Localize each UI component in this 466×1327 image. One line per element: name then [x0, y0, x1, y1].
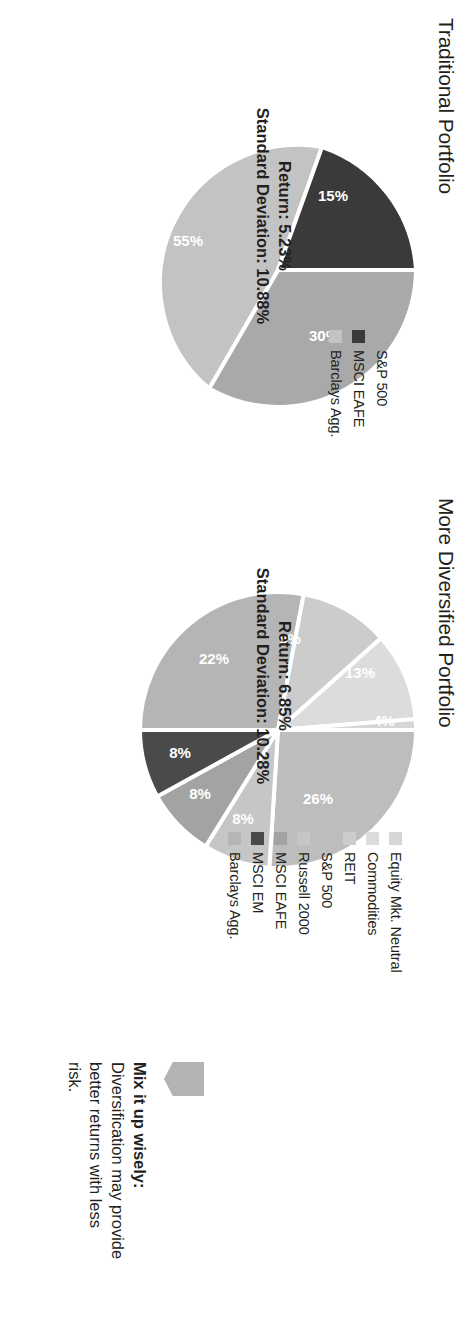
pie-value-label: 26%: [303, 790, 333, 807]
legend-swatch-icon: [390, 832, 403, 845]
callout-heading: Mix it up wisely:: [131, 1062, 149, 1189]
legend-item[interactable]: Equity Mkt. Neutral: [388, 832, 404, 973]
legend-traditional: S&P 500 MSCI EAFE Barclays Agg.: [328, 330, 390, 437]
legend-item[interactable]: MSCI EAFE: [351, 330, 367, 437]
chart-title-diversified: More Diversified Portfolio: [434, 498, 458, 1058]
infographic-canvas: Traditional Portfolio 30% 55% 15%: [0, 0, 466, 1327]
legend-swatch-icon: [367, 832, 380, 845]
legend-item[interactable]: S&P 500: [319, 832, 335, 973]
chart-title-traditional: Traditional Portfolio: [434, 18, 458, 488]
legend-item-label: REIT: [342, 852, 358, 885]
legend-item-label: Barclays Agg.: [328, 350, 344, 437]
legend-swatch-icon: [321, 832, 334, 845]
legend-swatch-icon: [330, 330, 343, 343]
shield-icon: [164, 1062, 204, 1096]
callout-text: Mix it up wisely: Diversification may pr…: [63, 1062, 150, 1262]
legend-item-label: Commodities: [365, 852, 381, 936]
legend-item-label: MSCI EM: [250, 852, 266, 913]
legend-swatch-icon: [275, 832, 288, 845]
legend-swatch-icon: [376, 330, 389, 343]
stdev-value-diversified: Standard Deviation: 10.28%: [251, 506, 273, 846]
pie-value-label: 8%: [189, 785, 211, 802]
legend-item-label: S&P 500: [319, 852, 335, 908]
return-value-diversified: Return: 6.85%: [274, 506, 296, 846]
chart-panel-diversified: More Diversified Portfolio: [0, 480, 466, 1040]
legend-item[interactable]: Barclays Agg.: [227, 832, 243, 973]
legend-item[interactable]: Russell 2000: [296, 832, 312, 973]
legend-item-label: Equity Mkt. Neutral: [388, 852, 404, 973]
legend-swatch-icon: [344, 832, 357, 845]
legend-item-label: Russell 2000: [296, 852, 312, 935]
legend-item-label: MSCI EAFE: [273, 852, 289, 929]
legend-swatch-icon: [353, 330, 366, 343]
legend-diversified: Equity Mkt. Neutral Commodities REIT S&P…: [227, 832, 404, 973]
legend-swatch-icon: [298, 832, 311, 845]
legend-swatch-icon: [252, 832, 265, 845]
pie-value-label: 22%: [199, 650, 229, 667]
legend-item[interactable]: REIT: [342, 832, 358, 973]
legend-item[interactable]: Commodities: [365, 832, 381, 973]
legend-item-label: MSCI EAFE: [351, 350, 367, 427]
callout-body: Diversification may provide better retur…: [66, 1062, 128, 1259]
legend-item-label: S&P 500: [374, 350, 390, 406]
pie-value-label: 4%: [373, 712, 395, 729]
chart-panel-traditional: Traditional Portfolio 30% 55% 15%: [0, 0, 466, 470]
legend-item[interactable]: MSCI EM: [250, 832, 266, 973]
pie-value-label: 55%: [173, 232, 203, 249]
legend-item[interactable]: MSCI EAFE: [273, 832, 289, 973]
legend-swatch-icon: [229, 832, 242, 845]
return-value-traditional: Return: 5.23%: [274, 46, 296, 386]
pie-value-label: 8%: [169, 744, 191, 761]
legend-item-label: Barclays Agg.: [227, 852, 243, 939]
stats-diversified: Return: 6.85% Standard Deviation: 10.28%: [251, 506, 296, 846]
legend-item[interactable]: S&P 500: [374, 330, 390, 437]
legend-item[interactable]: Barclays Agg.: [328, 330, 344, 437]
callout-block: Mix it up wisely: Diversification may pr…: [63, 1062, 204, 1262]
stdev-value-traditional: Standard Deviation: 10.88%: [251, 46, 273, 386]
stats-traditional: Return: 5.23% Standard Deviation: 10.88%: [251, 46, 296, 386]
pie-value-label: 15%: [318, 187, 348, 204]
pie-value-label: 13%: [345, 664, 375, 681]
